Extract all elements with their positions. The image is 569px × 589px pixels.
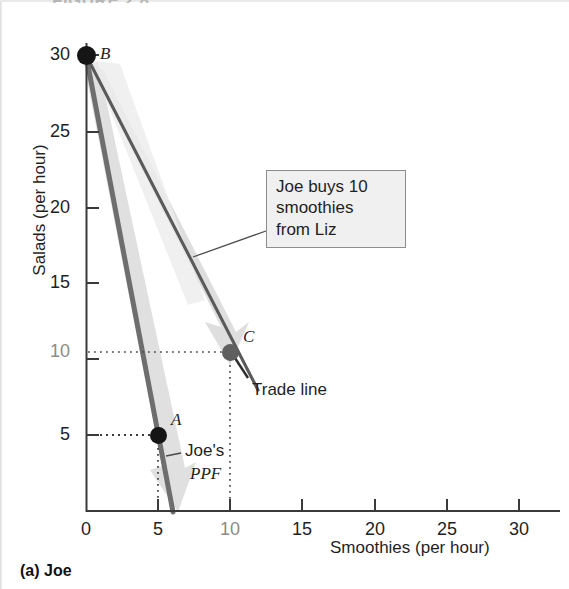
data-point-c-label: C (243, 327, 254, 347)
y-tick-label-5: 5 (36, 424, 70, 445)
x-axis-ticks (158, 499, 519, 511)
panel-caption: (a) Joe (20, 562, 72, 580)
y-tick-label-30: 30 (36, 44, 70, 65)
chart-plot-area: Salads (per hour) Smoothies (per hour) 3… (0, 0, 569, 589)
chart-svg (0, 0, 569, 589)
y-tick-label-10: 10 (36, 341, 70, 362)
data-point-a[interactable] (150, 427, 167, 444)
x-tick-label-30: 30 (502, 519, 536, 540)
x-tick-label-0: 0 (69, 519, 103, 540)
data-point-b-label: B (100, 44, 110, 64)
x-axis-title: Smoothies (per hour) (330, 538, 490, 558)
trade-line-label: Trade line (252, 380, 327, 400)
y-tick-label-25: 25 (36, 121, 70, 142)
x-tick-label-5: 5 (141, 519, 175, 540)
data-point-a-label: A (171, 410, 181, 430)
y-tick-label-15: 15 (36, 272, 70, 293)
joes-ppf-label-line2: PPF (190, 464, 221, 484)
x-tick-label-10: 10 (213, 519, 247, 540)
x-tick-label-15: 15 (285, 519, 319, 540)
trade-line (86, 55, 258, 390)
data-point-b[interactable] (77, 46, 96, 65)
callout-leader-line (193, 231, 266, 257)
joes-ppf-label-line1: Joe's (185, 441, 224, 461)
x-tick-label-25: 25 (430, 519, 464, 540)
x-tick-label-20: 20 (358, 519, 392, 540)
data-point-c[interactable] (222, 344, 239, 361)
callout-joe-buys-smoothies: Joe buys 10 smoothies from Liz (266, 170, 406, 248)
y-tick-label-20: 20 (36, 197, 70, 218)
